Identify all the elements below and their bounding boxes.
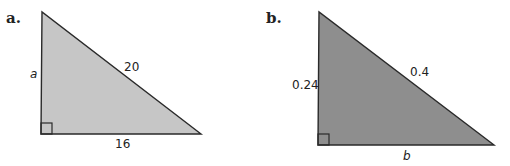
hypotenuse-label-a: 20 bbox=[124, 60, 139, 74]
vertical-leg-label-b: 0.24 bbox=[292, 78, 319, 92]
part-label-b: b. bbox=[266, 9, 282, 27]
vertical-leg-label-a: a bbox=[30, 67, 37, 81]
right-triangle-a bbox=[41, 12, 201, 134]
horizontal-leg-label-b: b bbox=[403, 149, 411, 163]
figure-b: b. 0.24 0.4 b bbox=[266, 9, 494, 163]
part-label-a: a. bbox=[6, 9, 21, 27]
horizontal-leg-label-a: 16 bbox=[115, 137, 130, 151]
figure-a: a. a 20 16 bbox=[6, 9, 201, 151]
diagram-canvas: a. a 20 16 b. 0.24 0.4 b bbox=[0, 0, 510, 166]
right-triangle-b bbox=[318, 12, 494, 145]
hypotenuse-label-b: 0.4 bbox=[410, 65, 429, 79]
